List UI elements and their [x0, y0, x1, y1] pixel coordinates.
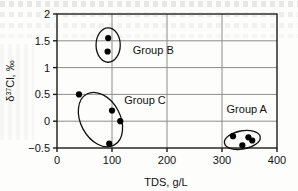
y-axis-label: δ37Cl, ‰: [4, 60, 16, 101]
group-annotations: Group BGroup CGroup A: [124, 44, 267, 114]
x-tick-label: 200: [158, 154, 176, 166]
data-point: [105, 35, 111, 41]
data-point: [105, 48, 111, 54]
y-axis-label-superscript: 37: [5, 88, 12, 96]
annotation-group-c: Group C: [124, 94, 166, 106]
group-outline-b: [96, 28, 120, 62]
chart-figure: −0.500.511.52 0100200300400 Group BGroup…: [0, 0, 298, 191]
data-point: [109, 107, 115, 113]
y-tick-label: −0.5: [28, 142, 50, 154]
x-tick-label: 0: [54, 154, 60, 166]
y-axis-ticks: −0.500.511.52: [28, 8, 57, 154]
y-axis-label-rest: Cl, ‰: [4, 60, 16, 88]
gridlines: [57, 14, 277, 148]
scatter-plot: −0.500.511.52 0100200300400 Group BGroup…: [0, 0, 298, 191]
data-point: [230, 133, 236, 139]
y-tick-label: 1.5: [35, 35, 50, 47]
x-tick-label: 300: [213, 154, 231, 166]
svg-text:δ37Cl, ‰: δ37Cl, ‰: [4, 60, 16, 101]
data-point: [106, 141, 112, 147]
x-tick-label: 100: [103, 154, 121, 166]
annotation-group-b: Group B: [133, 44, 174, 56]
data-point: [76, 91, 82, 97]
y-tick-label: 0.5: [35, 88, 50, 100]
x-axis-ticks: 0100200300400: [54, 148, 286, 166]
x-tick-label: 400: [268, 154, 286, 166]
y-tick-label: 0: [44, 115, 50, 127]
data-point: [249, 137, 255, 143]
data-point: [239, 142, 245, 148]
y-tick-label: 2: [44, 8, 50, 20]
y-tick-label: 1: [44, 62, 50, 74]
data-point: [117, 118, 123, 124]
x-axis-label: TDS, g/L: [144, 176, 187, 188]
annotation-group-a: Group A: [227, 103, 268, 115]
